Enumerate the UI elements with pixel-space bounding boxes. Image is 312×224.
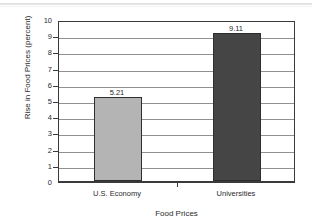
y-tick-label-8: 8 [28,49,52,57]
y-tick-label-4: 4 [28,114,52,122]
y-tick-label-6: 6 [28,82,52,90]
y-tick-label-0: 0 [28,179,52,187]
y-tick-label-10: 10 [28,17,52,25]
x-axis-title: Food Prices [58,209,295,218]
bar-value-label-1: 5.21 [87,88,147,97]
scan-artifact-line-secondary [0,6,312,7]
bar-chart-figure: Rise in Food Prices (percent) 1098765432… [0,0,312,224]
y-tick-label-9: 9 [28,33,52,41]
y-tick-label-5: 5 [28,98,52,106]
y-tick-label-2: 2 [28,147,52,155]
bar-1 [94,97,142,181]
x-tick-mark-1 [177,183,178,187]
bar-value-label-2: 9.11 [206,24,266,33]
y-tick-label-3: 3 [28,130,52,138]
x-category-label-2: Universities [181,189,291,199]
scan-artifact-line [0,3,312,5]
y-tick-label-7: 7 [28,66,52,74]
bar-2 [213,33,261,181]
y-tick-label-1: 1 [28,163,52,171]
x-category-label-1: U.S. Economy [62,189,172,199]
plot-area [58,21,295,183]
